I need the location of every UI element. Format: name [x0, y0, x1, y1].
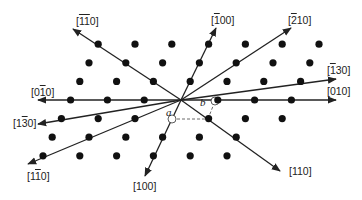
lattice-point	[39, 152, 46, 159]
lattice-point	[85, 59, 92, 66]
lattice-point	[58, 115, 65, 122]
lattice-point	[122, 134, 129, 141]
lattice-point	[187, 152, 194, 159]
lattice-point	[242, 115, 249, 122]
direction-arrow-1m10	[28, 100, 181, 164]
lattice-point	[297, 78, 304, 85]
direction-label-1m30: [130]	[13, 117, 36, 129]
lattice-point	[131, 41, 138, 48]
lattice-point	[233, 59, 240, 66]
lattice-point	[214, 96, 221, 103]
lattice-point	[113, 152, 120, 159]
lattice-point	[288, 96, 295, 103]
lattice-point	[85, 134, 92, 141]
lattice-point	[159, 59, 166, 66]
direction-label-110: [110]	[289, 165, 312, 177]
lattice-point	[196, 134, 203, 141]
lattice-point	[122, 59, 129, 66]
direction-label-m1m10: [110]	[76, 15, 99, 27]
lattice-point	[223, 152, 230, 159]
lattice-point	[242, 41, 249, 48]
lattice-point	[49, 134, 56, 141]
lattice-point	[141, 96, 148, 103]
lattice-point	[67, 96, 74, 103]
lattice-point	[159, 134, 166, 141]
lattice-point	[269, 59, 276, 66]
direction-label-m130: [130]	[327, 64, 350, 76]
lattice-point	[76, 152, 83, 159]
lattice-point	[205, 41, 212, 48]
direction-label-0m10: [010]	[31, 86, 54, 98]
direction-label-010: [010]	[327, 85, 350, 97]
direction-label-m210: [210]	[288, 14, 311, 26]
direction-label-1m10: [110]	[27, 170, 50, 182]
lattice-point	[95, 115, 102, 122]
lattice-point	[306, 59, 313, 66]
lattice-point	[279, 115, 286, 122]
basis-label-b: b	[200, 96, 206, 108]
lattice-point	[260, 78, 267, 85]
lattice-point	[315, 41, 322, 48]
lattice-point	[251, 96, 258, 103]
lattice-point	[150, 152, 157, 159]
direction-label-m100: [100]	[211, 14, 234, 26]
lattice-point	[131, 115, 138, 122]
lattice-point	[95, 41, 102, 48]
lattice-point	[150, 78, 157, 85]
lattice-point	[187, 78, 194, 85]
lattice-point	[113, 78, 120, 85]
lattice-point	[168, 41, 175, 48]
lattice-point	[205, 115, 212, 122]
lattice-point	[104, 96, 111, 103]
direction-arrow-110	[181, 100, 280, 171]
lattice-point	[196, 59, 203, 66]
lattice-point	[279, 41, 286, 48]
lattice-point	[223, 78, 230, 85]
basis-label-a: a	[166, 106, 172, 118]
lattice-point	[76, 78, 83, 85]
lattice-point	[233, 134, 240, 141]
direction-label-100: [100]	[133, 180, 156, 192]
